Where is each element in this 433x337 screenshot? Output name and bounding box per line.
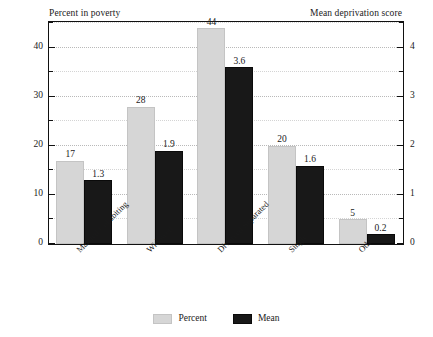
right-axis-tick-label: 1 xyxy=(410,189,415,199)
bar-value-label: 28 xyxy=(136,96,146,106)
left-axis-tick xyxy=(49,96,55,97)
bar-value-label: 1.3 xyxy=(92,170,104,180)
left-axis-tick xyxy=(49,22,53,23)
right-axis-tick-label: 4 xyxy=(410,42,415,52)
right-axis-tick xyxy=(399,169,403,170)
right-axis-tick xyxy=(397,194,403,195)
left-axis-tick xyxy=(49,120,53,121)
bar-value-label: 1.9 xyxy=(163,140,175,150)
legend-swatch-mean-icon xyxy=(233,314,252,324)
left-axis-tick-label: 30 xyxy=(34,91,44,101)
right-axis-caption: Mean deprivation score xyxy=(310,8,402,18)
right-axis-tick-label: 0 xyxy=(410,238,415,248)
legend-label: Mean xyxy=(258,314,280,324)
bar-value-label: 1.6 xyxy=(304,155,316,165)
right-axis-tick xyxy=(399,218,403,219)
right-axis-tick xyxy=(399,120,403,121)
right-axis-tick xyxy=(397,243,403,244)
right-axis-tick xyxy=(399,22,403,23)
legend-item-percent[interactable]: Percent xyxy=(153,314,207,324)
left-axis-caption: Percent in poverty xyxy=(49,8,120,18)
right-axis-tick-label: 3 xyxy=(410,91,415,101)
plot-area: 01020304001234171.3281.9443.6201.650.2 xyxy=(48,21,404,245)
bar-percent-2: 44 xyxy=(197,28,225,244)
left-axis-tick-label: 0 xyxy=(38,238,43,248)
left-axis-tick-label: 40 xyxy=(34,42,44,52)
left-axis-tick xyxy=(49,169,53,170)
chart-legend: PercentMean xyxy=(0,314,433,324)
bar-value-label: 20 xyxy=(277,135,287,145)
gridline xyxy=(49,22,403,23)
left-axis-tick xyxy=(49,243,55,244)
right-axis-tick xyxy=(399,71,403,72)
gridline xyxy=(49,47,403,48)
legend-item-mean[interactable]: Mean xyxy=(233,314,280,324)
right-axis-tick xyxy=(397,96,403,97)
right-axis-tick xyxy=(397,47,403,48)
bar-value-label: 0.2 xyxy=(375,224,387,234)
left-axis-tick xyxy=(49,71,53,72)
bar-percent-3: 20 xyxy=(268,146,296,244)
bar-percent-0: 17 xyxy=(56,161,84,244)
legend-label: Percent xyxy=(178,314,207,324)
right-axis-tick xyxy=(397,145,403,146)
left-axis-tick-label: 10 xyxy=(34,189,44,199)
legend-swatch-percent-icon xyxy=(153,314,172,324)
left-axis-tick xyxy=(49,194,55,195)
left-axis-tick xyxy=(49,47,55,48)
left-axis-tick-label: 20 xyxy=(34,140,44,150)
left-axis-tick xyxy=(49,145,55,146)
bar-value-label: 44 xyxy=(207,18,217,28)
left-axis-tick xyxy=(49,218,53,219)
bar-value-label: 5 xyxy=(350,209,355,219)
bar-value-label: 17 xyxy=(66,150,76,160)
right-axis-tick-label: 2 xyxy=(410,140,415,150)
bar-value-label: 3.6 xyxy=(233,57,245,67)
bar-percent-1: 28 xyxy=(127,107,155,244)
